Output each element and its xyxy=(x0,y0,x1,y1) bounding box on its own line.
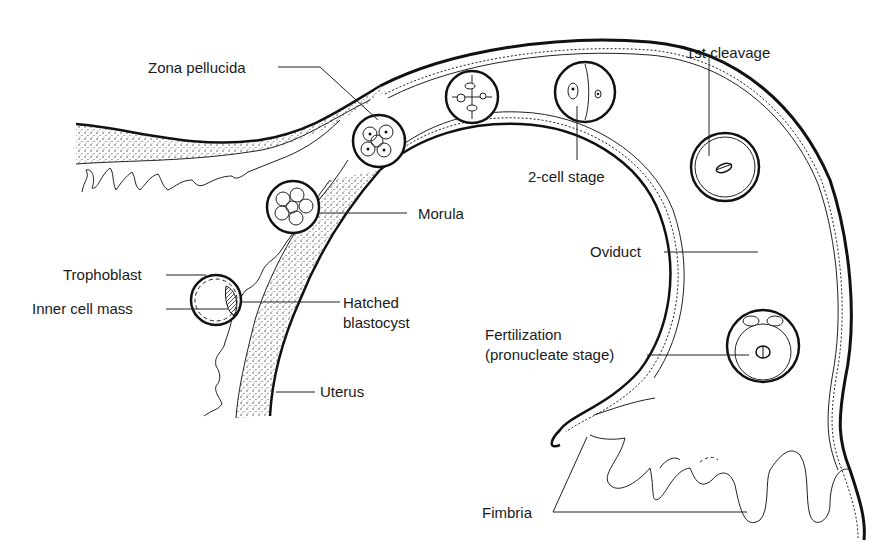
embryo-four-cell xyxy=(446,71,498,123)
embryo-development-diagram: Zona pellucida 1st cleavage 2-cell stage… xyxy=(0,0,895,549)
embryo-first-cleavage xyxy=(691,133,759,201)
labels: Zona pellucida 1st cleavage 2-cell stage… xyxy=(32,44,770,521)
label-inner-cell-mass: Inner cell mass xyxy=(32,300,133,317)
label-trophoblast: Trophoblast xyxy=(63,266,142,283)
label-zona-pellucida: Zona pellucida xyxy=(148,59,246,76)
embryo-two-cell xyxy=(555,62,615,122)
embryo-eight-cell xyxy=(353,115,405,167)
label-two-cell-stage: 2-cell stage xyxy=(528,168,605,185)
label-fertilization-line2: (pronucleate stage) xyxy=(485,346,614,363)
fimbriae xyxy=(590,435,850,523)
label-fimbria: Fimbria xyxy=(482,504,533,521)
embryo-pronucleate xyxy=(727,310,799,382)
label-morula: Morula xyxy=(418,205,465,222)
label-first-cleavage: 1st cleavage xyxy=(686,44,770,61)
label-fertilization-line1: Fertilization xyxy=(485,326,562,343)
uterus-wall-upper xyxy=(76,86,385,192)
embryo-morula xyxy=(267,181,319,233)
label-oviduct: Oviduct xyxy=(590,243,642,260)
embryo-hatched-blastocyst xyxy=(191,275,241,325)
label-hatched-line1: Hatched xyxy=(343,294,399,311)
label-hatched-line2: blastocyst xyxy=(343,314,411,331)
label-uterus: Uterus xyxy=(320,383,364,400)
